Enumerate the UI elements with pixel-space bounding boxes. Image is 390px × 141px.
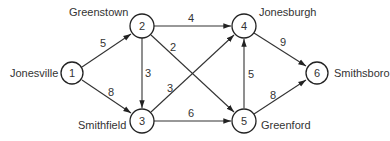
city-label: Greenford	[261, 119, 311, 131]
edge-weight: 8	[108, 86, 114, 98]
node-6: 6 Smithsboro	[306, 62, 390, 84]
edge-line	[254, 80, 306, 114]
edge-weight: 3	[167, 82, 173, 94]
node-number: 3	[139, 115, 145, 127]
edge-5-4: 5	[244, 39, 254, 108]
nodes: 1 Jonesville 2 Greenstown 3 Smithfield 4…	[10, 6, 390, 133]
edge-line	[82, 34, 131, 67]
node-3: 3 Smithfield	[78, 109, 154, 133]
city-label: Greenstown	[69, 6, 128, 18]
node-number: 6	[314, 67, 320, 79]
node-number: 5	[241, 115, 247, 127]
edge-weight: 4	[188, 12, 194, 24]
edge-4-6: 9	[254, 33, 306, 66]
city-label: Smithfield	[78, 119, 126, 131]
city-label: Smithsboro	[334, 67, 390, 79]
edge-weight: 5	[248, 68, 254, 80]
node-number: 2	[139, 20, 145, 32]
edge-weight: 9	[280, 36, 286, 48]
edge-line	[82, 80, 131, 113]
edge-weight: 6	[188, 107, 194, 119]
edge-weight: 5	[100, 37, 106, 49]
city-label: Jonesburgh	[259, 6, 317, 18]
city-label: Jonesville	[10, 67, 58, 79]
edge-3-5: 6	[154, 107, 231, 121]
edge-5-6: 8	[254, 80, 306, 114]
edge-weight: 2	[170, 41, 176, 53]
network-diagram: 5 8 4 3 2 3 6	[0, 0, 390, 141]
edges: 5 8 4 3 2 3 6	[82, 12, 306, 121]
node-1: 1 Jonesville	[10, 62, 83, 84]
edge-2-3: 3	[142, 38, 151, 108]
edge-weight: 3	[145, 67, 151, 79]
node-4: 4 Jonesburgh	[232, 6, 317, 38]
edge-1-2: 5	[82, 34, 131, 67]
node-number: 4	[241, 20, 247, 32]
node-2: 2 Greenstown	[69, 6, 154, 38]
node-5: 5 Greenford	[232, 109, 311, 133]
node-number: 1	[69, 67, 75, 79]
edge-2-4: 4	[154, 12, 231, 26]
edge-weight: 8	[270, 89, 276, 101]
edge-1-3: 8	[82, 80, 131, 113]
